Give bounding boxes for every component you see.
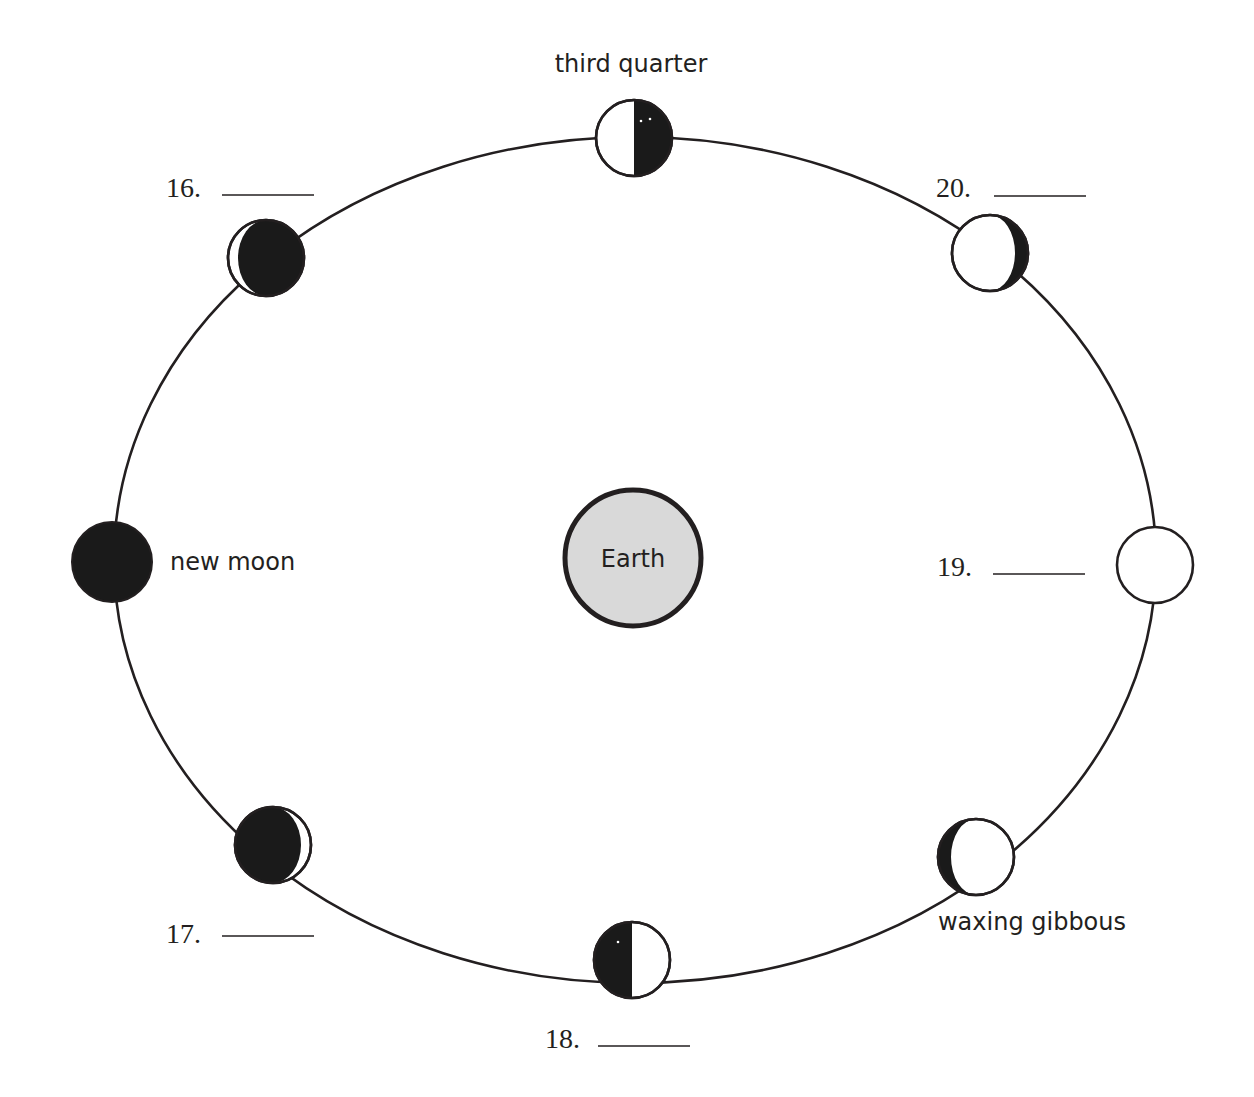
moon-new-moon	[72, 522, 152, 602]
moon-waxing-gibbous	[938, 819, 1014, 895]
question-19-number: 19.	[937, 551, 972, 582]
earth-label: Earth	[601, 545, 665, 573]
moon-19	[1117, 527, 1193, 603]
earth: Earth	[565, 490, 701, 626]
moon-20	[952, 215, 1028, 291]
question-18-number: 18.	[545, 1023, 580, 1054]
moon-18	[594, 922, 670, 998]
moon-17	[235, 807, 311, 883]
question-20-number: 20.	[936, 172, 971, 203]
question-16-number: 16.	[166, 172, 201, 203]
label-new-moon: new moon	[170, 548, 295, 576]
moon-phase-diagram: Earth third quarter 16. 20. new moon 19.	[0, 0, 1254, 1097]
moon-16	[228, 220, 304, 296]
question-17-number: 17.	[166, 918, 201, 949]
moon-third-quarter	[596, 100, 672, 176]
label-third-quarter: third quarter	[555, 50, 708, 78]
label-waxing-gibbous: waxing gibbous	[938, 908, 1126, 936]
moon-dark-side	[634, 100, 672, 176]
